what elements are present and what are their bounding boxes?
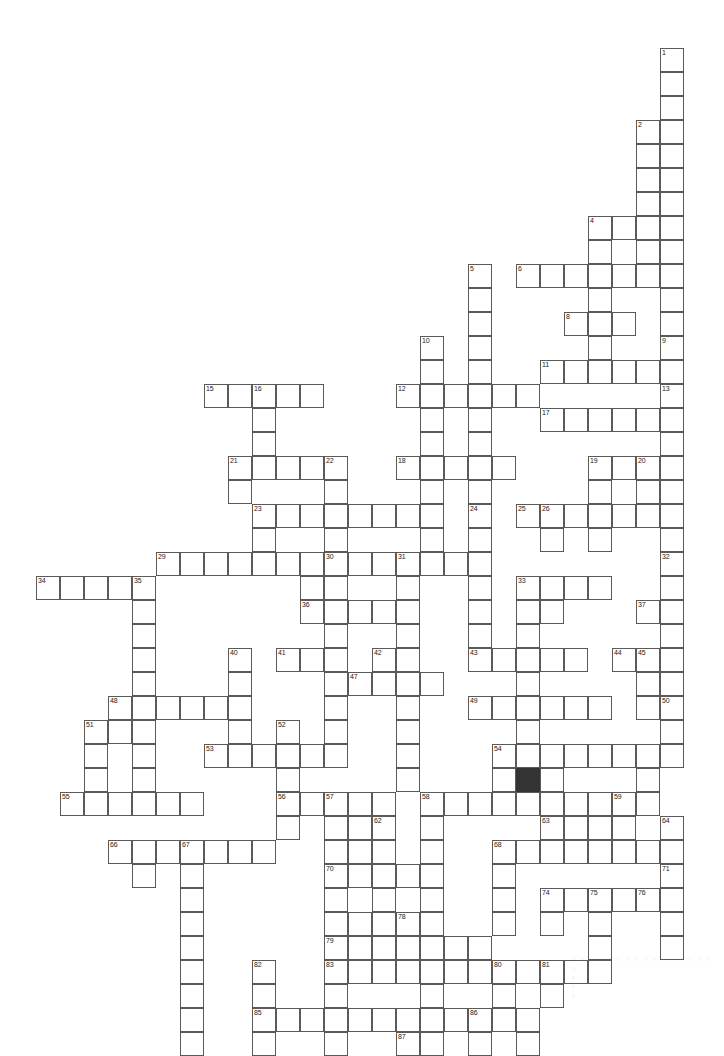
- crossword-cell[interactable]: [588, 744, 612, 768]
- crossword-cell[interactable]: [324, 744, 348, 768]
- crossword-cell[interactable]: 58: [420, 792, 444, 816]
- crossword-cell[interactable]: 11: [540, 360, 564, 384]
- crossword-cell[interactable]: [612, 216, 636, 240]
- crossword-cell[interactable]: [372, 600, 396, 624]
- crossword-cell[interactable]: 66: [108, 840, 132, 864]
- crossword-cell[interactable]: [468, 480, 492, 504]
- crossword-cell[interactable]: 36: [300, 600, 324, 624]
- crossword-cell[interactable]: [660, 192, 684, 216]
- crossword-cell[interactable]: [660, 720, 684, 744]
- crossword-cell[interactable]: [324, 984, 348, 1008]
- crossword-cell[interactable]: [444, 936, 468, 960]
- crossword-cell[interactable]: [564, 504, 588, 528]
- crossword-cell[interactable]: [660, 264, 684, 288]
- crossword-cell[interactable]: [372, 504, 396, 528]
- crossword-cell[interactable]: [564, 264, 588, 288]
- crossword-cell[interactable]: [444, 1008, 468, 1032]
- crossword-cell[interactable]: 49: [468, 696, 492, 720]
- crossword-cell[interactable]: [204, 840, 228, 864]
- crossword-cell[interactable]: [372, 552, 396, 576]
- crossword-cell[interactable]: [396, 744, 420, 768]
- crossword-cell[interactable]: 64: [660, 816, 684, 840]
- crossword-cell[interactable]: 31: [396, 552, 420, 576]
- crossword-cell[interactable]: [324, 888, 348, 912]
- crossword-cell[interactable]: [660, 360, 684, 384]
- crossword-cell[interactable]: [660, 576, 684, 600]
- crossword-cell[interactable]: [612, 456, 636, 480]
- crossword-cell[interactable]: [180, 984, 204, 1008]
- crossword-cell[interactable]: [84, 744, 108, 768]
- crossword-cell[interactable]: [324, 504, 348, 528]
- crossword-cell[interactable]: 86: [468, 1008, 492, 1032]
- crossword-cell[interactable]: [444, 552, 468, 576]
- crossword-cell[interactable]: [468, 960, 492, 984]
- crossword-cell[interactable]: [516, 840, 540, 864]
- crossword-cell[interactable]: [180, 696, 204, 720]
- crossword-cell[interactable]: [300, 504, 324, 528]
- crossword-cell[interactable]: [516, 672, 540, 696]
- crossword-cell[interactable]: [420, 504, 444, 528]
- crossword-cell[interactable]: [300, 792, 324, 816]
- crossword-cell[interactable]: 2: [636, 120, 660, 144]
- crossword-cell[interactable]: [276, 384, 300, 408]
- crossword-cell[interactable]: [420, 384, 444, 408]
- crossword-cell[interactable]: 51: [84, 720, 108, 744]
- crossword-cell[interactable]: [636, 696, 660, 720]
- crossword-cell[interactable]: [468, 360, 492, 384]
- crossword-cell[interactable]: [660, 288, 684, 312]
- crossword-cell[interactable]: [564, 576, 588, 600]
- crossword-cell[interactable]: [516, 384, 540, 408]
- crossword-cell[interactable]: [492, 984, 516, 1008]
- crossword-cell[interactable]: [564, 648, 588, 672]
- crossword-cell[interactable]: [396, 696, 420, 720]
- crossword-cell[interactable]: [156, 792, 180, 816]
- crossword-cell[interactable]: 48: [108, 696, 132, 720]
- crossword-cell[interactable]: [108, 576, 132, 600]
- crossword-cell[interactable]: [540, 840, 564, 864]
- crossword-cell[interactable]: [660, 840, 684, 864]
- crossword-cell[interactable]: [660, 648, 684, 672]
- crossword-cell[interactable]: [228, 672, 252, 696]
- crossword-cell[interactable]: [300, 1008, 324, 1032]
- crossword-cell[interactable]: [300, 576, 324, 600]
- crossword-cell[interactable]: 15: [204, 384, 228, 408]
- crossword-cell[interactable]: [180, 1032, 204, 1056]
- crossword-cell[interactable]: 33: [516, 576, 540, 600]
- crossword-cell[interactable]: [660, 120, 684, 144]
- crossword-cell[interactable]: [420, 360, 444, 384]
- crossword-cell[interactable]: [564, 744, 588, 768]
- crossword-cell[interactable]: 34: [36, 576, 60, 600]
- crossword-cell[interactable]: [636, 192, 660, 216]
- crossword-cell[interactable]: 30: [324, 552, 348, 576]
- crossword-cell[interactable]: [468, 456, 492, 480]
- crossword-cell[interactable]: [276, 1008, 300, 1032]
- crossword-cell[interactable]: [348, 960, 372, 984]
- crossword-cell[interactable]: [132, 840, 156, 864]
- crossword-cell[interactable]: [324, 720, 348, 744]
- crossword-cell[interactable]: [276, 744, 300, 768]
- crossword-cell[interactable]: 63: [540, 816, 564, 840]
- crossword-cell[interactable]: [372, 936, 396, 960]
- crossword-cell[interactable]: [156, 840, 180, 864]
- crossword-cell[interactable]: [588, 336, 612, 360]
- crossword-cell[interactable]: [276, 504, 300, 528]
- crossword-cell[interactable]: [540, 912, 564, 936]
- crossword-cell[interactable]: [468, 336, 492, 360]
- crossword-cell[interactable]: [660, 456, 684, 480]
- crossword-cell[interactable]: [636, 672, 660, 696]
- crossword-cell[interactable]: [252, 456, 276, 480]
- crossword-cell[interactable]: 53: [204, 744, 228, 768]
- crossword-cell[interactable]: [660, 528, 684, 552]
- crossword-cell[interactable]: [612, 504, 636, 528]
- crossword-cell[interactable]: [612, 408, 636, 432]
- crossword-cell[interactable]: [492, 864, 516, 888]
- crossword-cell[interactable]: [660, 408, 684, 432]
- crossword-cell[interactable]: 83: [324, 960, 348, 984]
- crossword-cell[interactable]: [396, 1008, 420, 1032]
- crossword-cell[interactable]: [348, 1008, 372, 1032]
- crossword-cell[interactable]: [396, 504, 420, 528]
- crossword-cell[interactable]: [180, 888, 204, 912]
- crossword-cell[interactable]: [132, 720, 156, 744]
- crossword-cell[interactable]: [636, 144, 660, 168]
- crossword-cell[interactable]: [612, 264, 636, 288]
